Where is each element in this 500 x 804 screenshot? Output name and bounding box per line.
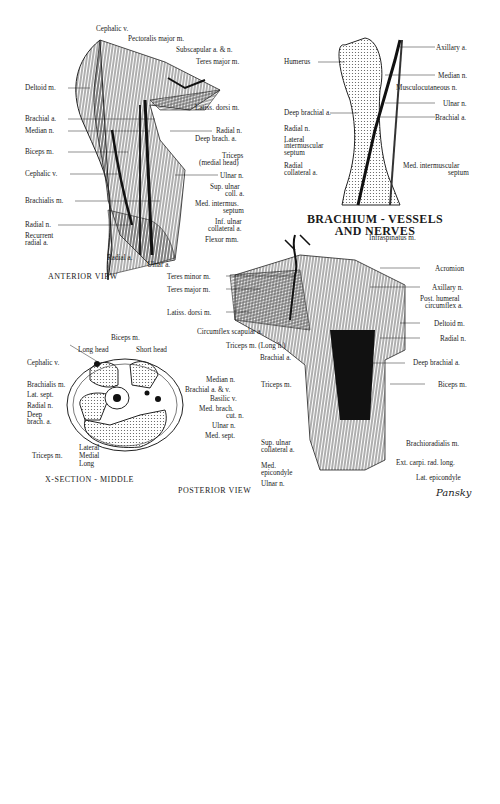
label-collateral-a: collateral a. — [208, 225, 242, 233]
label-subscapular: Subscapular a. & n. — [176, 46, 233, 54]
label-short-head: Short head — [136, 346, 167, 354]
posterior-arm-drawing — [230, 235, 405, 470]
label-brachialis-x: Brachialis m. — [27, 381, 65, 389]
label-triceps-p: Triceps m. — [261, 381, 291, 389]
label-brach-a-x: brach. a. — [27, 418, 52, 426]
xsection-drawing — [67, 359, 183, 451]
label-circumflex-a: circumflex a. — [425, 302, 463, 310]
label-biceps-x: Biceps m. — [111, 334, 140, 342]
label-ulnar-a: Ulnar a. — [147, 261, 170, 269]
label-brachial-a-p: Brachial a. — [260, 354, 291, 362]
label-medial-x: Medial — [79, 452, 99, 460]
label-brachial-av: Brachial a. & v. — [185, 386, 230, 394]
label-humerus: Humerus — [284, 58, 310, 66]
label-medial-head: (medial head) — [199, 159, 239, 167]
label-triceps-long: Triceps m. (Long h.) — [226, 342, 285, 350]
label-radial-a-rec: radial a. — [25, 239, 48, 247]
label-long-x: Long — [79, 460, 94, 468]
label-median-x: Median n. — [206, 376, 235, 384]
label-ulnar-n: Ulnar n. — [220, 172, 244, 180]
label-coll-a: coll. a. — [225, 190, 244, 198]
label-brachialis: Brachialis m. — [25, 197, 63, 205]
label-cut-n: cut. n. — [226, 412, 244, 420]
label-long-head: Long head — [78, 346, 109, 354]
label-septum-med: septum — [448, 169, 469, 177]
label-septum-lat: septum — [284, 149, 305, 157]
label-brachial-a: Brachial a. — [25, 115, 56, 123]
label-axillary-a: Axillary a. — [436, 44, 467, 52]
label-latiss-dorsi: Latiss. dorsi m. — [195, 104, 239, 112]
humerus-drawing — [339, 38, 402, 205]
label-infraspinatus: Infraspinatus m. — [369, 234, 416, 242]
label-biceps-p: Biceps m. — [438, 381, 467, 389]
label-latiss-dorsi-p: Latiss. dorsi m. — [167, 309, 211, 317]
label-radial-a: Radial a. — [107, 254, 133, 262]
label-brachial-a-h: Brachial a. — [435, 114, 466, 122]
label-acromion: Acromion — [435, 265, 464, 273]
label-triceps-x: Triceps m. — [32, 452, 62, 460]
label-median-n: Median n. — [25, 127, 54, 135]
label-deltoid: Deltoid m. — [25, 84, 56, 92]
label-axillary-n: Axillary n. — [432, 284, 463, 292]
label-ulnar-n-h: Ulnar n. — [443, 100, 467, 108]
label-cephalic-v: Cephalic v. — [25, 170, 57, 178]
label-flexor: Flexor mm. — [205, 236, 239, 244]
label-lat-epicondyle: Lat. epicondyle — [416, 474, 461, 482]
label-pectoralis-major: Pectoralis major m. — [128, 35, 184, 43]
label-med-sept: Med. sept. — [205, 432, 235, 440]
label-biceps: Biceps m. — [25, 148, 54, 156]
label-radial-x: Radial n. — [27, 402, 53, 410]
label-ext-carpi: Ext. carpi. rad. long. — [396, 459, 455, 467]
label-ulnar-x: Ulnar n. — [212, 422, 236, 430]
label-ulnar-n-p: Ulnar n. — [261, 480, 285, 488]
label-collateral-a-h: collateral a. — [284, 169, 318, 177]
label-septum-ant: septum — [223, 207, 244, 215]
label-epicondyle: epicondyle — [261, 469, 293, 477]
label-deltoid-p: Deltoid m. — [434, 320, 465, 328]
posterior-caption: POSTERIOR VIEW — [178, 486, 251, 495]
label-basilic: Basilic v. — [210, 395, 237, 403]
label-lateral-x: Lateral — [79, 444, 99, 452]
label-radial-n-lower: Radial n. — [25, 221, 51, 229]
label-circumflex-scapular: Circumflex scapular a. — [197, 328, 262, 336]
artist-signature: Pansky — [436, 487, 472, 498]
label-teres-minor: Teres minor m. — [167, 273, 211, 281]
label-deep-brach-a: Deep brach. a. — [195, 135, 237, 143]
label-teres-major: Teres major m. — [196, 58, 239, 66]
label-brachioradialis: Brachioradialis m. — [406, 440, 459, 448]
label-deep-brachial-p: Deep brachial a. — [413, 359, 460, 367]
label-deep-brachial-h: Deep brachial a. — [284, 109, 331, 117]
label-collateral-a-p: collateral a. — [261, 446, 295, 454]
label-teres-major-p: Teres major m. — [167, 286, 210, 294]
anterior-caption: ANTERIOR VIEW — [48, 272, 118, 281]
label-radial-n-p: Radial n. — [440, 335, 466, 343]
label-median-n-h: Median n. — [438, 72, 467, 80]
label-radial-n: Radial n. — [216, 127, 242, 135]
xsection-caption: X-SECTION - MIDDLE — [45, 475, 134, 484]
label-lat-sept: Lat. sept. — [27, 391, 54, 399]
label-cephalic-v-top: Cephalic v. — [96, 25, 128, 33]
label-musculocutaneous: Musculocutaneous n. — [396, 84, 457, 92]
illustration-layer — [0, 0, 500, 804]
label-radial-n-h: Radial n. — [284, 125, 310, 133]
label-cephalic-x: Cephalic v. — [27, 359, 59, 367]
